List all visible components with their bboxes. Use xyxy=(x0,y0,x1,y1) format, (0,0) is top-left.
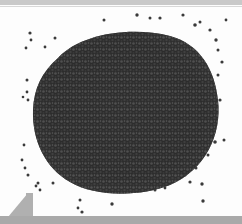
bottom-triangle-edge xyxy=(26,193,33,217)
photo-frame: Pile of dark granules xyxy=(0,0,242,224)
bottom-bar xyxy=(0,216,242,224)
granule-pile xyxy=(0,0,242,224)
bottom-triangle-shape xyxy=(8,193,28,217)
